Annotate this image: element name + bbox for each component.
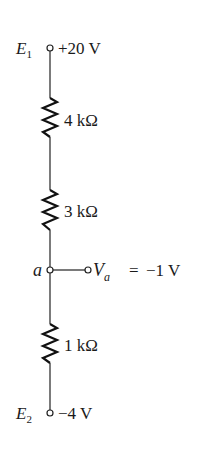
e2-label: E2: [15, 404, 32, 425]
node-a-terminal-icon: [47, 267, 53, 273]
e1-label: E1: [15, 39, 32, 60]
e1-value: +20 V: [58, 39, 102, 58]
output-va-terminal-icon: [85, 267, 91, 273]
terminal-e2-icon: [47, 410, 53, 416]
va-equals: =: [129, 261, 139, 280]
resistor-1k-icon: [43, 324, 57, 363]
resistor-3k-icon: [43, 190, 57, 230]
resistor-4k-label: 4 kΩ: [64, 111, 98, 130]
e2-value: −4 V: [58, 404, 93, 423]
circuit-diagram: E1 +20 V 4 kΩ 3 kΩ 1 kΩ a Va = −1 V E2 −…: [0, 0, 203, 450]
va-symbol: Va: [93, 260, 110, 284]
resistor-1k-label: 1 kΩ: [64, 336, 98, 355]
node-a-label: a: [33, 260, 42, 280]
resistor-3k-label: 3 kΩ: [64, 202, 98, 221]
terminal-e1-icon: [47, 45, 53, 51]
resistor-4k-icon: [43, 98, 57, 137]
va-value: −1 V: [146, 261, 181, 280]
